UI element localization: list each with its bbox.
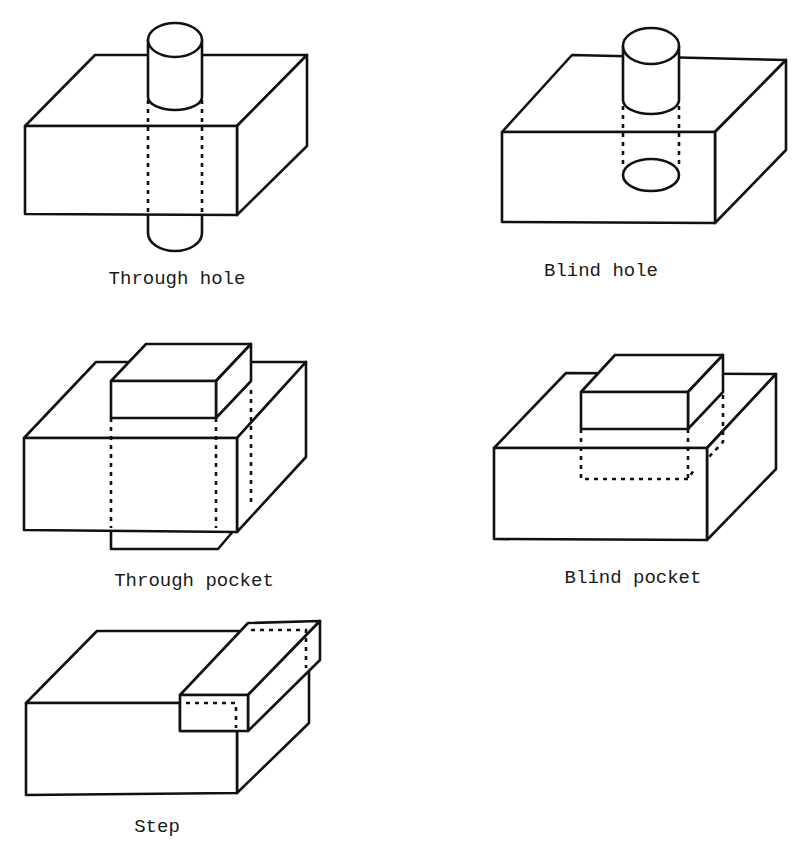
- through-hole-label: Through hole: [109, 268, 246, 290]
- through-pocket-drawing: [24, 344, 306, 549]
- blind-pocket-drawing: [494, 355, 776, 540]
- blind-pocket-label: Blind pocket: [565, 567, 702, 589]
- blind-hole-label: Blind hole: [544, 260, 658, 282]
- through-hole-drawing: [25, 23, 307, 251]
- through-pocket-label: Through pocket: [114, 570, 274, 592]
- feature-diagram: [0, 0, 802, 849]
- blind-hole-drawing: [502, 28, 786, 223]
- step-drawing: [26, 621, 320, 795]
- step-label: Step: [134, 816, 180, 838]
